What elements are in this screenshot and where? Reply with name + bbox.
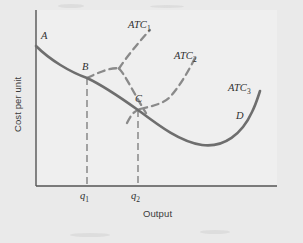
plot-background: [36, 10, 277, 186]
scan-speck: [200, 230, 230, 234]
figure-container: Cost per unit Output q1 q2 ATC1 ATC2 ATC…: [0, 0, 303, 243]
y-axis-label: Cost per unit: [12, 77, 23, 132]
curve-label-atc1-text: ATC: [128, 19, 147, 30]
curve-label-atc1-sub: 1: [147, 24, 151, 33]
x-axis-label: Output: [143, 208, 172, 219]
tick-label-q1-sub: 1: [85, 195, 89, 204]
curve-label-atc3: ATC3: [228, 82, 251, 96]
scan-speck: [58, 4, 84, 8]
point-label-b: B: [82, 61, 88, 72]
tick-label-q2-sub: 2: [136, 195, 140, 204]
curve-label-atc2-text: ATC: [174, 50, 193, 61]
curve-label-atc1: ATC1: [128, 19, 151, 33]
tick-label-q1: q1: [80, 190, 89, 204]
point-label-d: D: [236, 110, 244, 121]
tick-label-q2: q2: [131, 190, 140, 204]
scan-speck: [70, 233, 110, 237]
curve-label-atc2: ATC2: [174, 50, 197, 64]
scan-speck: [150, 5, 184, 8]
curve-label-atc3-text: ATC: [228, 82, 247, 93]
curve-label-atc2-sub: 2: [193, 55, 197, 64]
point-label-c: C: [135, 93, 142, 104]
point-label-a: A: [41, 30, 47, 41]
curve-label-atc3-sub: 3: [247, 87, 251, 96]
